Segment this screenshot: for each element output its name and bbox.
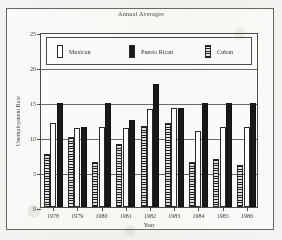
gridline-y-15 — [41, 104, 257, 105]
y-axis-title: Unemployment Rate — [12, 33, 24, 208]
x-tick-1978 — [53, 207, 54, 211]
x-axis-title: Year — [40, 222, 258, 228]
x-tick-1979 — [77, 207, 78, 211]
x-tick-label-1982: 1982 — [144, 213, 156, 219]
legend-swatch-puerto-rican-icon — [129, 45, 135, 58]
bar-puerto-rican-1983 — [178, 108, 184, 207]
scanned-chart-page: Annual Averages Unemployment Rate 051015… — [0, 0, 282, 240]
x-tick-label-1981: 1981 — [120, 213, 132, 219]
x-tick-label-1980: 1980 — [96, 213, 108, 219]
x-tick-1986 — [247, 207, 248, 211]
y-tick-label-0: 0 — [33, 206, 36, 212]
y-axis-title-label: Unemployment Rate — [15, 96, 21, 146]
x-tick-label-1986: 1986 — [241, 213, 253, 219]
bar-mexican-1982 — [147, 109, 153, 207]
bar-puerto-rican-1978 — [57, 103, 63, 207]
bar-puerto-rican-1980 — [105, 103, 111, 207]
bar-cuban-1979 — [68, 137, 74, 207]
x-tick-1982 — [150, 207, 151, 211]
x-tick-1983 — [174, 207, 175, 211]
bar-cuban-1984 — [189, 162, 195, 208]
bar-puerto-rican-1984 — [202, 103, 208, 207]
x-tick-label-1985: 1985 — [217, 213, 229, 219]
bar-mexican-1980 — [99, 127, 105, 208]
y-tick-label-15: 15 — [30, 101, 36, 107]
bar-mexican-1986 — [244, 127, 250, 207]
bar-puerto-rican-1986 — [250, 103, 256, 207]
gridline-y-20 — [41, 69, 257, 70]
bar-mexican-1985 — [220, 127, 226, 207]
x-tick-label-1978: 1978 — [47, 213, 59, 219]
bar-cuban-1985 — [213, 159, 219, 207]
legend-swatch-cuban-icon — [205, 45, 211, 58]
legend-item-cuban[interactable]: Cuban — [205, 45, 233, 58]
bar-puerto-rican-1985 — [226, 103, 232, 207]
bar-mexican-1983 — [171, 108, 177, 207]
bar-cuban-1981 — [116, 144, 122, 207]
x-tick-1981 — [126, 207, 127, 211]
y-tick-5 — [37, 174, 41, 175]
y-tick-label-10: 10 — [30, 136, 36, 142]
x-tick-label-1984: 1984 — [192, 213, 204, 219]
legend-label-puerto-rican: Puerto Rican — [141, 48, 173, 55]
bar-cuban-1978 — [44, 154, 50, 207]
y-tick-label-25: 25 — [30, 31, 36, 37]
bar-cuban-1982 — [141, 126, 147, 207]
x-tick-label-1979: 1979 — [71, 213, 83, 219]
y-tick-10 — [37, 139, 41, 140]
legend-item-puerto-rican[interactable]: Puerto Rican — [129, 45, 173, 58]
legend-label-cuban: Cuban — [217, 48, 233, 55]
bar-mexican-1981 — [123, 128, 129, 207]
chart-legend: MexicanPuerto RicanCuban — [46, 37, 252, 65]
bar-puerto-rican-1982 — [153, 84, 159, 207]
bar-puerto-rican-1979 — [81, 127, 87, 207]
bar-cuban-1980 — [92, 162, 98, 208]
x-tick-1985 — [223, 207, 224, 211]
x-tick-1980 — [102, 207, 103, 211]
y-tick-0 — [37, 209, 41, 210]
bar-mexican-1978 — [50, 123, 56, 207]
y-tick-25 — [37, 34, 41, 35]
y-tick-label-20: 20 — [30, 66, 36, 72]
bar-cuban-1986 — [237, 165, 243, 207]
x-tick-1984 — [198, 207, 199, 211]
legend-swatch-mexican-icon — [57, 45, 63, 58]
bar-mexican-1979 — [74, 128, 80, 207]
bar-puerto-rican-1981 — [129, 120, 135, 208]
legend-item-mexican[interactable]: Mexican — [57, 45, 91, 58]
bar-mexican-1984 — [195, 131, 201, 207]
chart-title: Annual Averages — [0, 10, 282, 17]
x-tick-label-1983: 1983 — [168, 213, 180, 219]
legend-label-mexican: Mexican — [69, 48, 91, 55]
y-tick-15 — [37, 104, 41, 105]
y-tick-20 — [37, 69, 41, 70]
y-tick-label-5: 5 — [33, 171, 36, 177]
bar-cuban-1983 — [165, 123, 171, 207]
